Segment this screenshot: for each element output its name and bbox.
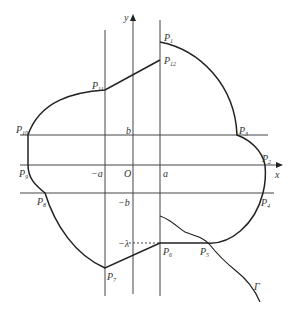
label-p3: P3 <box>238 125 248 137</box>
x-axis-label: x <box>274 169 280 180</box>
label-p5: P5 <box>199 246 209 258</box>
x-axis-arrow-icon <box>276 162 283 168</box>
label-p4: P4 <box>260 197 270 209</box>
label-p1: P1 <box>163 32 173 44</box>
label-p10: P10 <box>15 124 28 136</box>
origin-label: O <box>124 168 131 179</box>
tick-b: b <box>126 125 131 136</box>
label-p2: P2 <box>261 153 271 165</box>
tick-neg-b: −b <box>118 197 130 208</box>
label-p11: P11 <box>91 80 104 92</box>
label-p8: P8 <box>36 196 46 208</box>
region-boundary <box>28 42 265 268</box>
label-gamma: Γ <box>253 281 260 292</box>
diagram-svg: y x O −a a b −b −λ P1 P2 P3 P4 P5 P6 P7 … <box>0 0 295 324</box>
label-p9: P9 <box>18 168 28 180</box>
tick-neg-lambda: −λ <box>118 238 130 249</box>
diagram-canvas: y x O −a a b −b −λ P1 P2 P3 P4 P5 P6 P7 … <box>0 0 295 324</box>
label-p6: P6 <box>162 246 172 258</box>
tick-neg-a: −a <box>91 168 103 179</box>
y-axis-arrow-icon <box>130 14 136 21</box>
curve-gamma <box>160 216 260 302</box>
label-p7: P7 <box>106 271 117 283</box>
label-p12: P12 <box>163 55 176 67</box>
y-axis-label: y <box>123 12 129 23</box>
tick-a: a <box>163 168 168 179</box>
